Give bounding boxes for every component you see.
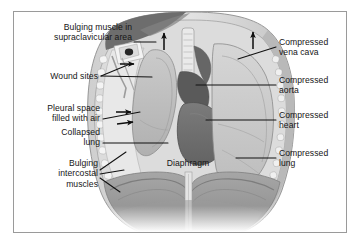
label-compressed-aorta: Compressed aorta (279, 75, 351, 96)
label-bulging-intercostal-muscles: Bulging intercostal muscles (24, 158, 98, 189)
label-pleural-space: Pleural space filled with air (22, 103, 100, 124)
label-diaphragm: Diaphragm (161, 158, 215, 168)
label-compressed-lung: Compressed lung (279, 148, 351, 169)
pneumothorax-figure: Bulging muscle in supraclavicular area W… (0, 0, 361, 245)
label-collapsed-lung: Collapsed lung (32, 127, 100, 148)
label-wound-sites: Wound sites (34, 71, 98, 81)
label-compressed-vena-cava: Compressed vena cava (279, 37, 351, 58)
label-compressed-heart: Compressed heart (279, 110, 351, 131)
label-bulging-muscle: Bulging muscle in supraclavicular area (18, 22, 132, 43)
figure-labels: Bulging muscle in supraclavicular area W… (0, 0, 361, 245)
